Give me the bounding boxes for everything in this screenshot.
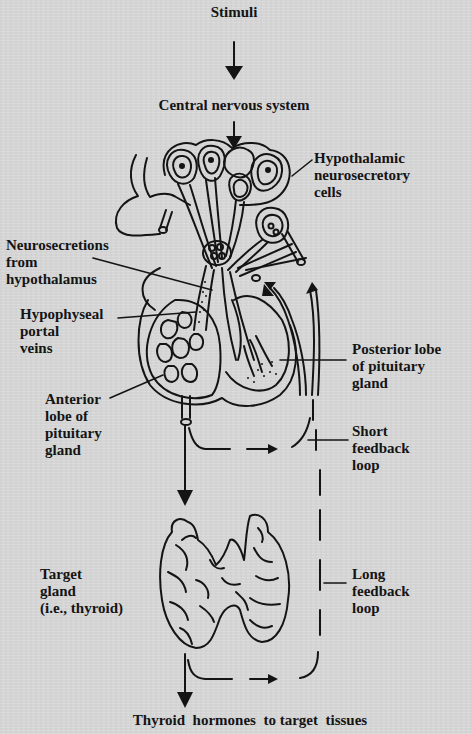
label-line: Anterior: [45, 391, 102, 408]
posterior-lobe: [226, 296, 289, 390]
label-line: cells: [314, 184, 410, 201]
label-hypothalamic-neurosecretory-cells: Hypothalamic neurosecretory cells: [314, 150, 410, 201]
label-line: feedback: [352, 583, 410, 600]
label-line: of pituitary: [352, 358, 441, 375]
label-line: Hypophyseal: [20, 306, 103, 323]
hypothalamus-outline: [116, 155, 190, 236]
label-line: Short: [352, 423, 410, 440]
label-line: from: [6, 254, 109, 271]
label-line: lobe of: [45, 408, 102, 425]
label-line: Hypothalamic: [314, 150, 410, 167]
pituitary-outline: [139, 300, 296, 406]
label-line: Posterior lobe: [352, 341, 441, 358]
thyroid-output-arrow: [177, 654, 278, 708]
label-line: pituitary: [45, 425, 102, 442]
label-thyroid-hormones-output: Thyroid hormones to target tissues: [100, 712, 400, 729]
label-line: loop: [352, 457, 410, 474]
label-line: (i.e., thyroid): [40, 600, 123, 617]
label-line: gland: [45, 442, 102, 459]
short-feedback-arrow: [189, 418, 310, 454]
label-line: Target: [40, 566, 123, 583]
label-anterior-lobe: Anterior lobe of pituitary gland: [45, 391, 102, 459]
label-line: hypothalamus: [6, 271, 109, 288]
feedback-up-arrows: [262, 282, 319, 395]
stimuli-arrow: [225, 42, 243, 80]
diagram-canvas: Stimuli Central nervous system Hypothala…: [0, 0, 472, 734]
neurosecretory-cells: [164, 140, 290, 243]
label-line: gland: [40, 583, 123, 600]
label-line: Neurosecretions: [6, 237, 109, 254]
label-central-nervous-system: Central nervous system: [134, 97, 334, 114]
label-line: Long: [352, 566, 410, 583]
label-line: veins: [20, 340, 103, 357]
long-feedback-line: [300, 400, 320, 678]
label-long-feedback-loop: Long feedback loop: [352, 566, 410, 617]
label-short-feedback-loop: Short feedback loop: [352, 423, 410, 474]
thyroid-gland: [160, 515, 289, 648]
label-hypophyseal-portal-veins: Hypophyseal portal veins: [20, 306, 103, 357]
label-stimuli: Stimuli: [194, 4, 274, 21]
label-line: feedback: [352, 440, 410, 457]
label-neurosecretions-from-hypothalamus: Neurosecretions from hypothalamus: [6, 237, 109, 288]
label-target-gland: Target gland (i.e., thyroid): [40, 566, 123, 617]
label-line: loop: [352, 600, 410, 617]
label-posterior-lobe: Posterior lobe of pituitary gland: [352, 341, 441, 392]
label-line: neurosecretory: [314, 167, 410, 184]
label-line: portal: [20, 323, 103, 340]
anterior-outflow: [177, 396, 193, 506]
label-line: gland: [352, 375, 441, 392]
